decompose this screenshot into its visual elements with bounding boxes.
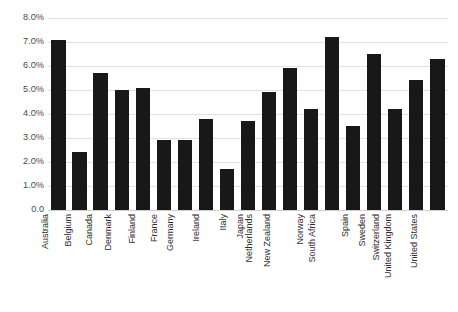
bar	[220, 169, 234, 210]
bar-slot	[195, 18, 216, 210]
x-axis-category-label: Denmark	[103, 214, 112, 251]
y-axis-tick-label: 6.0%	[4, 61, 44, 70]
bar	[283, 68, 297, 210]
bar-slot	[406, 18, 427, 210]
bar-slot	[69, 18, 90, 210]
x-axis-category-label: Sweden	[358, 214, 367, 247]
bar-slot	[343, 18, 364, 210]
bar-slot	[153, 18, 174, 210]
x-axis-category-label: France	[150, 214, 159, 242]
x-axis-category-label: Ireland	[192, 214, 201, 242]
x-axis-category-label: Italy	[219, 214, 228, 231]
bar-slot	[237, 18, 258, 210]
bar	[388, 109, 402, 210]
bar	[72, 152, 86, 210]
y-axis-tick-label: 5.0%	[4, 85, 44, 94]
x-axis-category-label: Switzerland	[372, 214, 381, 261]
bar	[93, 73, 107, 210]
bar-slot	[90, 18, 111, 210]
x-axis-tick-labels: AustraliaBelgiumCanadaDenmarkFinlandFran…	[48, 212, 448, 310]
bar-slot	[280, 18, 301, 210]
y-axis-tick-label: 3.0%	[4, 133, 44, 142]
x-label-slot: Ireland	[195, 212, 216, 310]
x-axis-category-label: New Zealand	[264, 214, 273, 267]
bar	[241, 121, 255, 210]
x-axis-category-label: Canada	[85, 214, 94, 246]
bar-slot	[258, 18, 279, 210]
x-axis-category-label: South Africa	[308, 214, 317, 263]
x-axis-category-label: Australia	[41, 214, 50, 249]
bar	[157, 140, 171, 210]
bar	[346, 126, 360, 210]
y-axis-tick-label: 8.0%	[4, 13, 44, 22]
bar	[262, 92, 276, 210]
bar-series	[48, 18, 448, 210]
x-label-slot: United States	[427, 212, 448, 310]
bar-slot	[427, 18, 448, 210]
x-axis-category-label: United States	[410, 214, 419, 268]
bar-slot	[301, 18, 322, 210]
bar	[304, 109, 318, 210]
bar	[409, 80, 423, 210]
bar-slot	[111, 18, 132, 210]
bar-slot	[216, 18, 237, 210]
bar-slot	[48, 18, 69, 210]
y-axis-tick-label: 2.0%	[4, 157, 44, 166]
x-axis-category-label: United Kingdom	[384, 214, 393, 278]
bar	[367, 54, 381, 210]
bar	[178, 140, 192, 210]
bar-slot	[322, 18, 343, 210]
y-axis-tick-label: 7.0%	[4, 37, 44, 46]
bar	[199, 119, 213, 210]
x-axis-category-label: Norway	[296, 214, 305, 245]
bar-slot	[364, 18, 385, 210]
bar-slot	[132, 18, 153, 210]
x-axis-category-label: Germany	[166, 214, 175, 251]
y-axis-tick-label: 1.0%	[4, 181, 44, 190]
bar	[115, 90, 129, 210]
bar	[325, 37, 339, 210]
x-axis-category-label: Netherlands	[245, 214, 254, 263]
bar-chart: 0.01.0%2.0%3.0%4.0%5.0%6.0%7.0%8.0% Aust…	[0, 0, 458, 312]
bar-slot	[385, 18, 406, 210]
x-label-slot: South Africa	[322, 212, 343, 310]
bar	[51, 40, 65, 210]
gridline-0-0	[48, 210, 448, 211]
bar	[430, 59, 444, 210]
bar-slot	[174, 18, 195, 210]
x-axis-category-label: Finland	[128, 214, 137, 244]
x-axis-category-label: Spain	[342, 214, 351, 237]
x-axis-category-label: Belgium	[63, 214, 72, 247]
y-axis-tick-label: 4.0%	[4, 109, 44, 118]
y-axis-tick-label: 0.0	[4, 205, 44, 214]
bar	[136, 88, 150, 210]
